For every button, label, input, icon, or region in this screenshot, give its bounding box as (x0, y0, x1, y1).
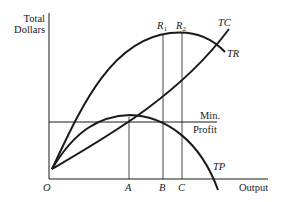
r1-label: R1 (156, 20, 167, 33)
marker-c-label: C (178, 182, 186, 193)
profit-diagram: Total Dollars O A B C Output Min. Profit… (0, 0, 286, 202)
tc-curve (52, 29, 229, 169)
r2-label: R2 (175, 20, 186, 33)
origin-label: O (43, 182, 51, 193)
tr-label: TR (227, 48, 240, 59)
y-axis-label-dollars: Dollars (14, 24, 45, 35)
x-axis-label: Output (239, 182, 268, 193)
y-axis-label-total: Total (24, 13, 46, 24)
tr-curve (52, 32, 225, 169)
marker-a-label: A (124, 182, 132, 193)
min-profit-label-min: Min. (200, 110, 220, 121)
tp-label: TP (213, 161, 226, 172)
tc-label: TC (218, 17, 232, 28)
marker-b-label: B (159, 182, 166, 193)
min-profit-label-profit: Profit (193, 124, 217, 135)
